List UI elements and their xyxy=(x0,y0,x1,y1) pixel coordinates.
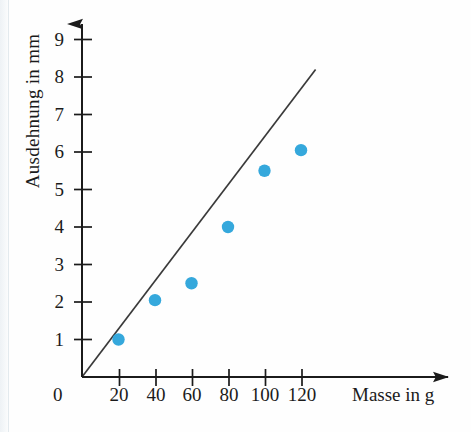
x-axis-label: Masse in g xyxy=(352,384,434,406)
y-tick-label-6: 6 xyxy=(42,141,64,163)
data-point xyxy=(112,333,124,345)
plot-area xyxy=(0,0,471,432)
y-tick-label-3: 3 xyxy=(42,254,64,276)
data-point xyxy=(149,294,161,306)
y-tick-label-8: 8 xyxy=(42,66,64,88)
data-point xyxy=(258,165,270,177)
best-fit-line xyxy=(82,70,316,378)
y-axis-label: Ausdehnung in mm xyxy=(22,16,44,206)
y-tick-label-9: 9 xyxy=(42,29,64,51)
chart-figure: Ausdehnung in mm Masse in g 0 1 2 3 4 5 … xyxy=(0,0,471,432)
data-point xyxy=(222,221,234,233)
origin-label: 0 xyxy=(53,384,63,406)
y-tick-label-2: 2 xyxy=(42,291,64,313)
y-tick-label-7: 7 xyxy=(42,104,64,126)
y-tick-label-4: 4 xyxy=(42,216,64,238)
y-tick-label-5: 5 xyxy=(42,179,64,201)
data-point xyxy=(295,144,307,156)
y-tick-label-1: 1 xyxy=(42,329,64,351)
x-tick-label-120: 120 xyxy=(280,384,324,406)
data-points xyxy=(112,144,307,346)
data-point xyxy=(185,277,197,289)
